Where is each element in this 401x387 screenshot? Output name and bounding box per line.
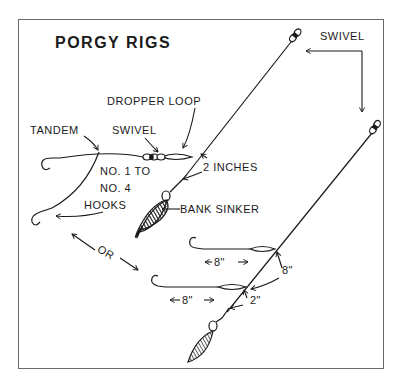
label-bank-sinker: BANK SINKER bbox=[180, 204, 259, 215]
diagram-title: PORGY RIGS bbox=[55, 35, 171, 51]
annotation-arrows bbox=[56, 51, 362, 308]
label-hooks-line3: HOOKS bbox=[84, 200, 126, 211]
label-swivel-top: SWIVEL bbox=[320, 31, 365, 42]
label-lower-dropper-length: 8" bbox=[182, 295, 193, 306]
label-hooks-line1: NO. 1 TO bbox=[100, 166, 151, 177]
main-line-right bbox=[227, 133, 372, 312]
hook-icon-2 bbox=[32, 208, 52, 225]
porgy-rigs-illustration bbox=[0, 0, 401, 387]
label-spacing-between: 8" bbox=[282, 265, 293, 276]
dropper-loop bbox=[162, 154, 192, 160]
hook-icon-1 bbox=[42, 158, 60, 170]
label-hooks-line2: NO. 4 bbox=[100, 183, 131, 194]
label-upper-dropper-length: 8" bbox=[214, 257, 225, 268]
label-tandem: TANDEM bbox=[30, 125, 79, 136]
swivel-icon bbox=[368, 119, 382, 135]
bank-sinker-icon-2 bbox=[188, 331, 213, 362]
main-line-left bbox=[184, 42, 291, 178]
hook-icon-3 bbox=[190, 237, 203, 249]
label-dropper-loop: DROPPER LOOP bbox=[107, 96, 201, 107]
label-swivel-left: SWIVEL bbox=[112, 125, 157, 136]
label-spacing-to-sinker: 2" bbox=[250, 295, 261, 306]
hook-icon-4 bbox=[152, 275, 165, 287]
dropper-swivel-icon bbox=[143, 154, 165, 160]
label-two-inches: 2 INCHES bbox=[203, 162, 258, 173]
tandem-leader bbox=[60, 154, 143, 158]
swivel-icon bbox=[288, 28, 302, 43]
